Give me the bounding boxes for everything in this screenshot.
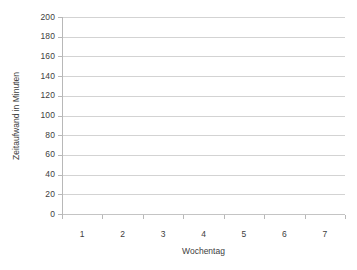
y-tick-mark [58, 155, 62, 156]
x-axis-title: Wochentag [62, 246, 345, 257]
gridline-100 [62, 116, 345, 117]
x-tick-label-4: 4 [184, 229, 224, 239]
x-tick-label-7: 7 [305, 229, 345, 239]
y-axis-title-text: Zeitaufwand in Minuten [9, 72, 23, 160]
x-tick-mark [224, 215, 225, 219]
y-tick-mark [58, 175, 62, 176]
gridline-140 [62, 76, 345, 77]
gridline-160 [62, 56, 345, 57]
y-axis-title: Zeitaufwand in Minuten [9, 17, 23, 214]
y-tick-mark [58, 116, 62, 117]
x-tick-label-2: 2 [103, 229, 143, 239]
x-tick-label-5: 5 [224, 229, 264, 239]
y-tick-mark [58, 37, 62, 38]
x-tick-mark [143, 215, 144, 219]
x-tick-label-1: 1 [62, 229, 102, 239]
y-tick-mark [58, 194, 62, 195]
gridline-180 [62, 37, 345, 38]
gridline-200 [62, 17, 345, 18]
gridline-60 [62, 155, 345, 156]
x-tick-mark [345, 215, 346, 219]
gridline-40 [62, 175, 345, 176]
gridline-120 [62, 96, 345, 97]
gridline-80 [62, 135, 345, 136]
y-tick-mark [58, 76, 62, 77]
x-tick-label-3: 3 [143, 229, 183, 239]
x-tick-label-6: 6 [264, 229, 304, 239]
y-tick-mark [58, 135, 62, 136]
x-tick-mark [102, 215, 103, 219]
y-tick-mark [58, 56, 62, 57]
y-tick-mark [58, 96, 62, 97]
x-tick-mark [264, 215, 265, 219]
plot-area [62, 17, 345, 214]
y-axis-line [62, 17, 63, 215]
x-tick-mark [183, 215, 184, 219]
gridline-0-baseline [62, 214, 345, 215]
x-tick-mark [62, 215, 63, 219]
x-tick-mark [305, 215, 306, 219]
chart-container: 200 180 160 140 120 100 80 60 40 20 0 1 … [0, 0, 357, 270]
gridline-20 [62, 194, 345, 195]
y-tick-mark [58, 17, 62, 18]
